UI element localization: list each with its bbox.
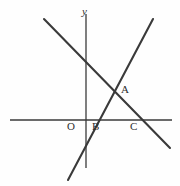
ascending-line [68,19,153,180]
origin-label: O [67,121,75,132]
point-c-label: C [130,121,137,132]
descending-line [44,19,170,148]
point-b-label: B [92,121,99,132]
point-a-label: A [121,84,129,95]
geometry-figure: y O B C A [0,0,180,186]
y-axis-label: y [82,6,87,17]
figure-canvas [0,0,180,186]
